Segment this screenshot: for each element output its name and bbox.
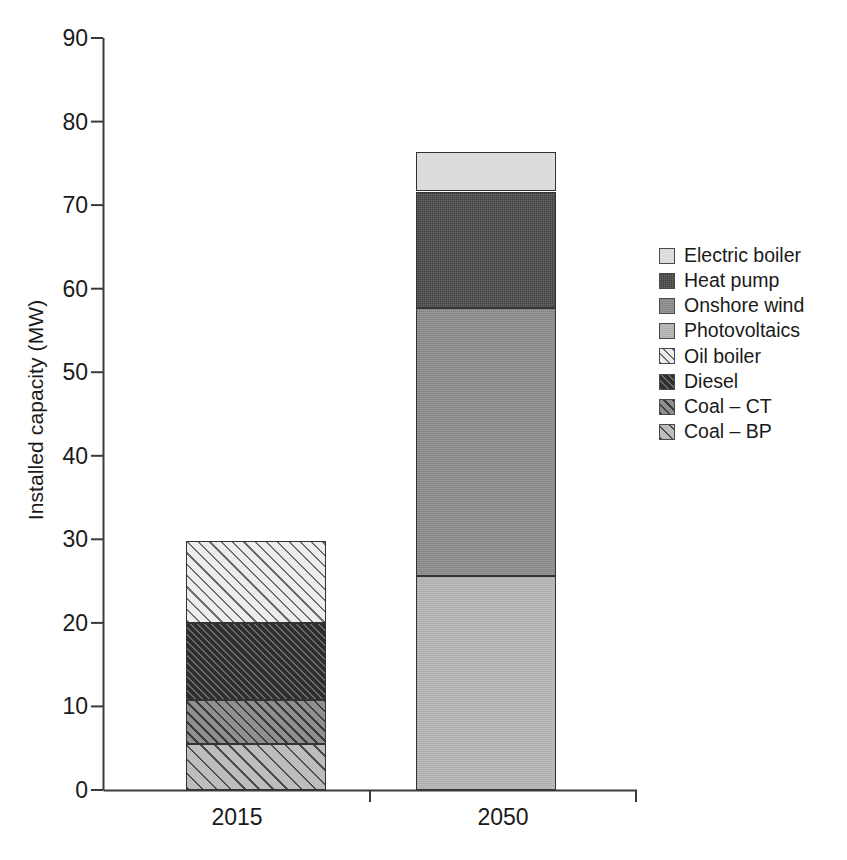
bar-segment-2015-coal-ct [186,700,326,744]
legend-item-electric-boiler[interactable]: Electric boiler [659,243,847,268]
bar-segment-2050-onshore-wind [416,308,556,576]
bar-segment-2015-oil-boiler [186,541,326,623]
legend-item-oil-boiler[interactable]: Oil boiler [659,344,847,369]
legend-swatch-heat-pump [659,273,675,289]
legend-item-onshore-wind[interactable]: Onshore wind [659,293,847,318]
legend-item-coal-ct[interactable]: Coal – CT [659,394,847,419]
legend-label-coal-bp: Coal – BP [684,422,772,442]
legend-swatch-coal-ct [659,399,675,415]
legend-label-diesel: Diesel [684,372,738,392]
x-tick-label-2015: 2015 [211,806,262,829]
x-axis-ticks [370,790,636,802]
legend-item-coal-bp[interactable]: Coal – BP [659,419,847,444]
bar-segment-2050-heat-pump [416,192,556,308]
legend-label-photovoltaics: Photovoltaics [684,321,800,341]
legend-swatch-photovoltaics [659,323,675,339]
legend-swatch-onshore-wind [659,298,675,314]
bar-chart: 90 80 70 60 50 40 30 20 10 0 Installed c… [0,0,847,860]
y-axis-ticks [91,38,103,790]
legend-label-oil-boiler: Oil boiler [684,347,761,367]
legend-swatch-coal-bp [659,424,675,440]
bar-segment-2050-photovoltaics [416,576,556,790]
legend-label-heat-pump: Heat pump [684,271,779,291]
legend-label-electric-boiler: Electric boiler [684,246,801,266]
legend-swatch-diesel [659,374,675,390]
chart-legend: Electric boiler Heat pump Onshore wind P… [659,243,847,445]
bar-segment-2015-diesel [186,623,326,700]
legend-label-coal-ct: Coal – CT [684,397,772,417]
x-tick-label-2050: 2050 [477,806,528,829]
legend-swatch-electric-boiler [659,248,675,264]
bar-segment-2050-electric-boiler [416,152,556,191]
legend-item-photovoltaics[interactable]: Photovoltaics [659,319,847,344]
y-axis-title: Installed capacity (MW) [14,30,58,790]
legend-item-diesel[interactable]: Diesel [659,369,847,394]
legend-label-onshore-wind: Onshore wind [684,296,804,316]
legend-swatch-oil-boiler [659,348,675,364]
bar-segment-2015-coal-bp [186,744,326,790]
legend-item-heat-pump[interactable]: Heat pump [659,268,847,293]
